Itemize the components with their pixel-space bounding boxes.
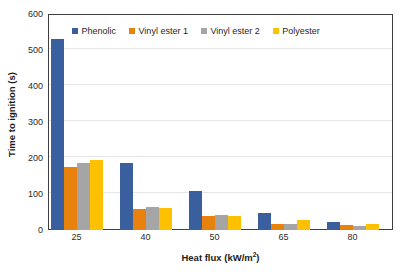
legend-label: Phenolic [82,26,117,36]
legend-swatch-icon [72,28,78,34]
x-tick-label: 25 [71,232,81,242]
bar[interactable] [284,224,297,230]
bar[interactable] [228,216,241,230]
y-tick-label: 200 [28,153,43,163]
bar[interactable] [353,226,366,230]
bar[interactable] [159,208,172,230]
bar[interactable] [202,216,215,230]
legend-item[interactable]: Vinyl ester 2 [201,26,260,36]
legend-swatch-icon [129,28,135,34]
legend-label: Vinyl ester 2 [210,26,259,36]
bar[interactable] [271,224,284,230]
bar[interactable] [366,224,379,230]
bar[interactable] [133,209,146,230]
legend-label: Vinyl ester 1 [139,26,188,36]
y-axis-title: Time to ignition (s) [0,0,22,228]
x-axis-tick-labels: 2540506580 [48,232,393,246]
y-axis-tick-labels: 0100200300400500600 [20,14,46,230]
legend-item[interactable]: Vinyl ester 1 [129,26,188,36]
legend-swatch-icon [201,28,207,34]
bar[interactable] [146,207,159,230]
bar[interactable] [120,163,133,230]
x-tick-label: 65 [278,232,288,242]
bar[interactable] [189,191,202,230]
legend-label: Polyester [282,26,320,36]
legend-swatch-icon [273,28,279,34]
gridline [49,84,392,85]
legend-item[interactable]: Phenolic [72,26,116,36]
bar[interactable] [64,167,77,230]
y-tick-label: 600 [28,9,43,19]
x-axis-title-tail: ) [256,252,259,263]
bar[interactable] [215,215,228,230]
y-tick-label: 400 [28,81,43,91]
bar[interactable] [51,39,64,230]
bar[interactable] [77,163,90,230]
x-axis-title-text: Heat flux (kW/m [181,252,252,263]
legend-item[interactable]: Polyester [273,26,320,36]
bar[interactable] [90,160,103,230]
bar[interactable] [297,220,310,230]
y-tick-label: 100 [28,189,43,199]
bar[interactable] [340,225,353,230]
x-tick-label: 50 [209,232,219,242]
x-tick-label: 40 [140,232,150,242]
bar[interactable] [258,213,271,230]
chart-legend: PhenolicVinyl ester 1Vinyl ester 2Polyes… [72,26,320,36]
bar-chart: Time to ignition (s) 0100200300400500600… [0,0,403,276]
y-tick-label: 300 [28,117,43,127]
x-axis-title: Heat flux (kW/m2) [48,252,393,263]
bar[interactable] [327,222,340,230]
y-tick-label: 500 [28,45,43,55]
y-tick-label: 0 [38,225,43,235]
gridline [49,48,392,49]
gridline [49,156,392,157]
gridline [49,120,392,121]
y-axis-title-text: Time to ignition (s) [6,72,17,157]
x-tick-label: 80 [347,232,357,242]
